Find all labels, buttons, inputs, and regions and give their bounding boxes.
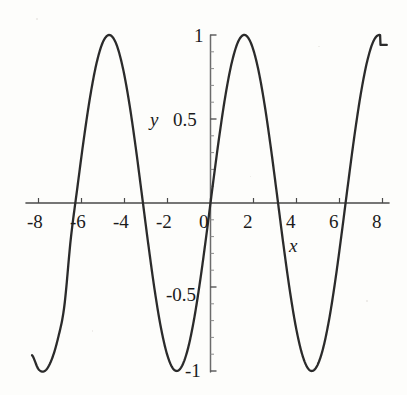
y-tick-label-0.5: 0.5: [173, 110, 197, 129]
x-tick-label--6: -6: [70, 212, 86, 231]
x-axis-name: x: [289, 236, 297, 255]
y-tick-label--0.5: -0.5: [166, 285, 196, 304]
sine-wave-figure: -8 -6 -4 -2 0 2 4 6 8 1 0.5 -0.5 -1 y x: [0, 0, 407, 395]
x-tick-label-6: 6: [329, 212, 339, 231]
y-tick-label--1: -1: [185, 361, 201, 380]
x-tick-label--2: -2: [156, 212, 172, 231]
x-tick-label-4: 4: [286, 212, 296, 231]
paper-speck: [250, 176, 251, 177]
x-tick-label-2: 2: [243, 212, 253, 231]
x-tick-label--8: -8: [27, 212, 43, 231]
paper-speck: [92, 330, 93, 332]
paper-speck: [318, 46, 320, 47]
axes-group: [26, 35, 389, 372]
x-tick-label-0: 0: [199, 212, 209, 231]
y-tick-label-1: 1: [194, 26, 204, 45]
plot-canvas: [0, 0, 407, 395]
x-tick-label-8: 8: [372, 212, 382, 231]
paper-speck: [366, 300, 368, 302]
paper-speck: [36, 18, 38, 20]
x-tick-label--4: -4: [113, 212, 129, 231]
y-axis-name: y: [150, 110, 158, 129]
